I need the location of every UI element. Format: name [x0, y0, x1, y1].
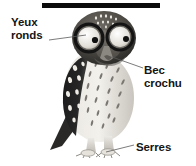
label-serres: Serres [136, 141, 171, 154]
pupil-right [123, 36, 129, 42]
illustration-page: Yeux ronds Bec crochu Serres [0, 0, 196, 166]
label-bec-crochu: Bec crochu [144, 64, 182, 89]
owl-body [50, 52, 134, 150]
label-yeux-ronds: Yeux ronds [11, 16, 42, 41]
pupil-left [92, 37, 98, 43]
